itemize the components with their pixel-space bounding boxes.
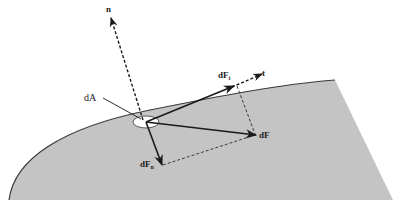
surface-body xyxy=(9,80,393,200)
tangent-vector-arrow-icon xyxy=(232,74,262,87)
label-dF-n-main: dF xyxy=(140,159,151,169)
label-dF-t-main: dF xyxy=(218,70,229,80)
label-dA: dA xyxy=(84,92,97,103)
force-diagram: n dA dFt t dF dFn xyxy=(0,0,401,207)
label-dF-t-sub: t xyxy=(229,75,231,81)
label-dF: dF xyxy=(259,130,270,140)
label-n: n xyxy=(106,4,111,14)
label-dF-t: dFt xyxy=(218,70,231,81)
label-t: t xyxy=(262,68,265,78)
